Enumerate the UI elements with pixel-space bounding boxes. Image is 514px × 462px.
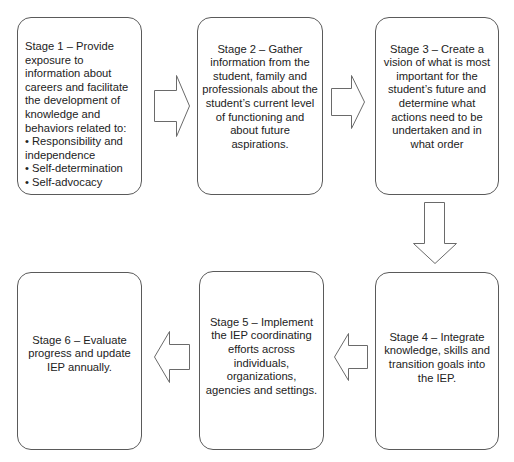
- stage-5-title: Stage 5 – Implement the IEP coordinating…: [200, 316, 323, 398]
- stage-6-title: Stage 6 – Evaluate progress and update I…: [18, 334, 141, 375]
- arrow-right-icon: [331, 75, 365, 129]
- arrow-right-icon: [154, 75, 190, 137]
- stage-3-title: Stage 3 – Create a vision of what is mos…: [376, 43, 498, 152]
- stage-1-bullet: Self-determination: [25, 162, 141, 176]
- stage-1-bullet-list: Responsibility and independence Self-det…: [25, 135, 141, 189]
- stage-1-bullet: Responsibility and independence: [25, 135, 141, 162]
- stage-1-text: Stage 1 – Provide exposure to informatio…: [18, 18, 141, 190]
- stage-4-title: Stage 4 – Integrate knowledge, skills an…: [376, 331, 498, 385]
- stage-1-bullet: Self-advocacy: [25, 176, 141, 190]
- arrow-down-icon: [413, 202, 457, 264]
- stage-3-box: Stage 3 – Create a vision of what is mos…: [375, 17, 499, 195]
- stage-2-title: Stage 2 – Gather information from the st…: [198, 43, 322, 152]
- stage-4-box: Stage 4 – Integrate knowledge, skills an…: [375, 272, 499, 450]
- stage-2-box: Stage 2 – Gather information from the st…: [197, 17, 323, 195]
- arrow-left-icon: [334, 333, 368, 381]
- arrow-left-icon: [154, 331, 190, 383]
- stage-1-box: Stage 1 – Provide exposure to informatio…: [17, 17, 142, 195]
- stage-6-box: Stage 6 – Evaluate progress and update I…: [17, 272, 142, 450]
- stage-1-title: Stage 1 – Provide exposure to informatio…: [25, 40, 141, 135]
- stage-5-box: Stage 5 – Implement the IEP coordinating…: [199, 271, 324, 450]
